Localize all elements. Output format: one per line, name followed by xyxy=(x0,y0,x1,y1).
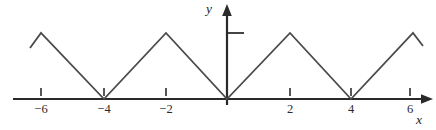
x-tick-label-2: 2 xyxy=(270,103,310,116)
triangle-wave-figure: −6 −4 −2 2 4 6 y x xyxy=(0,0,436,130)
x-axis-label: x xyxy=(416,113,422,127)
y-axis-arrowhead xyxy=(222,4,232,16)
x-tick-label-minus4: −4 xyxy=(84,103,124,116)
x-tick-label-6: 6 xyxy=(390,103,430,116)
x-tick-label-minus6: −6 xyxy=(21,103,61,116)
x-tick-label-minus2: −2 xyxy=(146,103,186,116)
x-tick-label-4: 4 xyxy=(331,103,371,116)
y-axis-label: y xyxy=(206,2,212,16)
